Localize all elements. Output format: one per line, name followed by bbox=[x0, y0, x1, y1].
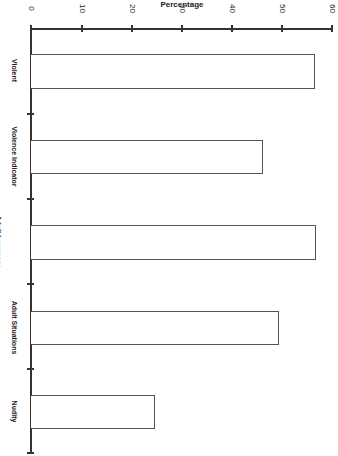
bar-adult-situations bbox=[31, 311, 279, 345]
x-tick bbox=[231, 25, 233, 32]
x-tick bbox=[281, 25, 283, 32]
y-tick bbox=[27, 452, 34, 454]
x-tick bbox=[81, 25, 83, 32]
category-label-adult-language-content: Adult Language Content bbox=[0, 212, 3, 272]
category-label-violent: Violent bbox=[10, 26, 19, 116]
bar-nudity bbox=[31, 395, 155, 429]
x-tick-label-20: 20 bbox=[128, 0, 137, 19]
x-tick-label-40: 40 bbox=[228, 0, 237, 19]
x-axis-title: Percentage bbox=[0, 0, 338, 9]
y-tick bbox=[27, 283, 34, 285]
x-tick-label-30: 30 bbox=[178, 0, 187, 19]
y-tick bbox=[27, 113, 34, 115]
category-label-nudity: Nudity bbox=[10, 367, 19, 456]
x-tick-label-60: 60 bbox=[328, 0, 337, 19]
bar-adult-language-content bbox=[31, 225, 316, 260]
x-tick-label-50: 50 bbox=[278, 0, 287, 19]
x-tick bbox=[30, 25, 32, 32]
x-tick-label-10: 10 bbox=[78, 0, 87, 19]
y-tick bbox=[27, 368, 34, 370]
category-label-violence-indicator: Violence Indicator bbox=[10, 112, 19, 202]
x-tick bbox=[131, 25, 133, 32]
x-tick bbox=[331, 25, 333, 32]
category-label-adult-situations: Adult Situations bbox=[10, 283, 19, 373]
bar-violence-indicator bbox=[31, 140, 263, 174]
x-tick-label-0: 0 bbox=[27, 0, 36, 19]
y-tick bbox=[27, 198, 34, 200]
x-tick bbox=[181, 25, 183, 32]
bar-violent bbox=[31, 54, 315, 89]
